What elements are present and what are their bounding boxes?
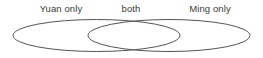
region-label-intersection: both (122, 3, 141, 14)
region-label-right: Ming only (189, 3, 231, 14)
region-label-left: Yuan only (40, 3, 83, 14)
venn-diagram: Yuan only both Ming only (0, 0, 263, 58)
